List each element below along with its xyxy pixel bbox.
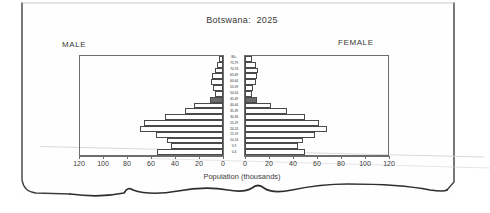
female-axis-tick-label: 40	[289, 160, 297, 167]
female-axis-tick	[317, 156, 318, 159]
bar-row	[245, 149, 388, 155]
male-panel-label: MALE	[62, 40, 86, 49]
female-bar-0-4	[245, 149, 305, 155]
male-axis-tick	[79, 156, 80, 159]
male-plot-panel	[79, 55, 223, 156]
female-bar-rows	[245, 56, 388, 155]
female-axis-tick-label: 100	[359, 160, 371, 167]
age-group-axis: 80+75-7970-7465-6960-6455-5950-5445-4940…	[223, 55, 245, 156]
female-axis-tick	[269, 156, 270, 159]
chart-title: Botswana: 2025	[0, 15, 484, 25]
male-bar-0-4	[157, 149, 223, 155]
male-axis-tick	[223, 156, 224, 159]
female-axis-tick-label: 60	[313, 160, 321, 167]
male-axis-tick-label: 40	[171, 160, 179, 167]
female-axis-tick	[245, 156, 246, 159]
male-axis-tick-label: 20	[195, 160, 203, 167]
age-group-label: 0-4	[224, 150, 244, 156]
female-axis-tick	[365, 156, 366, 159]
female-axis-tick	[341, 156, 342, 159]
x-axis-caption: Population (thousands)	[0, 172, 484, 181]
female-plot-panel	[245, 55, 389, 156]
male-axis-tick-label: 120	[73, 160, 85, 167]
female-axis-tick	[389, 156, 390, 159]
male-axis-tick	[199, 156, 200, 159]
male-axis-tick	[103, 156, 104, 159]
male-axis-tick-label: 60	[147, 160, 155, 167]
male-axis-tick	[175, 156, 176, 159]
female-axis-tick-label: 0	[243, 160, 247, 167]
male-axis-tick	[151, 156, 152, 159]
female-axis-tick-label: 80	[337, 160, 345, 167]
male-bar-rows	[80, 56, 223, 155]
bar-row	[80, 149, 223, 155]
female-axis-tick	[293, 156, 294, 159]
female-panel-label: FEMALE	[338, 38, 374, 47]
male-axis-tick-label: 100	[97, 160, 109, 167]
male-axis-tick	[127, 156, 128, 159]
female-axis-tick-label: 20	[265, 160, 273, 167]
male-axis-tick-label: 0	[221, 160, 225, 167]
male-axis-tick-label: 80	[123, 160, 131, 167]
female-axis-tick-label: 120	[383, 160, 395, 167]
